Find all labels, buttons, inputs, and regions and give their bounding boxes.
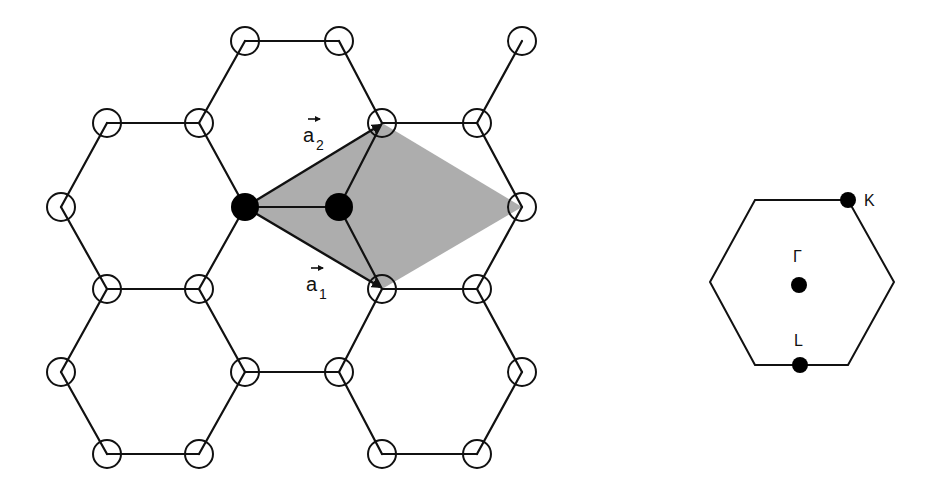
label-a1: a 1 — [306, 268, 327, 302]
point-Gamma — [791, 277, 807, 293]
label-L: L — [794, 332, 803, 349]
label-a2: a 2 — [303, 119, 324, 153]
label-Gamma: Γ — [793, 248, 802, 265]
filled-atom — [325, 193, 353, 221]
point-L — [792, 357, 808, 373]
filled-atom — [231, 193, 259, 221]
svg-text:a: a — [306, 273, 318, 295]
svg-text:2: 2 — [316, 137, 324, 153]
svg-text:1: 1 — [319, 286, 327, 302]
open-atoms — [47, 27, 536, 468]
figure-canvas: a 2 a 1 K Γ L — [0, 0, 933, 497]
point-K — [840, 192, 856, 208]
label-K: K — [864, 192, 875, 209]
svg-text:a: a — [303, 124, 315, 146]
